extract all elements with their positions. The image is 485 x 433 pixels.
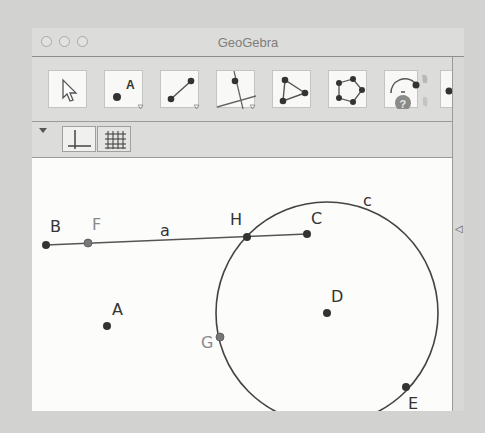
regular-polygon-tool-button[interactable]: [328, 70, 367, 108]
point-D[interactable]: [323, 309, 331, 317]
toolbar: A: [32, 57, 452, 122]
label-H: H: [230, 210, 242, 229]
show-axes-toggle[interactable]: [62, 126, 96, 152]
segment-tool-button[interactable]: [160, 70, 199, 108]
line-through-points-icon: [161, 71, 200, 109]
circle-c[interactable]: [216, 202, 438, 411]
geogebra-window: GeoGebra A: [32, 28, 464, 411]
geometry-drawing: [32, 158, 452, 411]
window-title: GeoGebra: [32, 35, 464, 50]
label-G: G: [201, 333, 213, 352]
label-C: C: [311, 209, 322, 228]
label-B: B: [50, 217, 61, 236]
point-E[interactable]: [402, 383, 410, 391]
grid-icon: [98, 127, 132, 153]
circle-arc-icon: ?: [385, 71, 430, 109]
stylebar-toggle-icon[interactable]: [38, 126, 50, 138]
label-A: A: [112, 300, 123, 319]
style-bar: [32, 122, 452, 158]
point-C[interactable]: [303, 230, 311, 238]
svg-text:A: A: [126, 78, 135, 92]
point-G[interactable]: [216, 333, 224, 341]
svg-text:?: ?: [400, 98, 407, 110]
pentagon-icon: [329, 71, 368, 109]
move-tool-button[interactable]: [48, 70, 87, 108]
title-bar: GeoGebra: [32, 28, 464, 57]
angle-tool-button[interactable]: ?: [384, 70, 418, 108]
point-A[interactable]: [103, 322, 111, 330]
polygon-tool-button[interactable]: [272, 70, 311, 108]
perpendicular-line-tool-button[interactable]: [216, 70, 255, 108]
label-a: a: [160, 221, 170, 240]
point-tool-button[interactable]: A: [104, 70, 143, 108]
graphics-view[interactable]: B F a H C c A D G E: [32, 158, 452, 411]
partial-tool-button[interactable]: [440, 70, 452, 108]
point-H[interactable]: [243, 233, 251, 241]
point-icon: A: [105, 71, 144, 109]
perpendicular-line-icon: [217, 71, 256, 109]
label-F: F: [92, 215, 101, 234]
label-E: E: [408, 394, 418, 411]
collapse-panel-icon[interactable]: ◁: [455, 223, 463, 234]
arrow-cursor-icon: [49, 71, 88, 109]
show-grid-toggle[interactable]: [97, 126, 131, 152]
point-F[interactable]: [84, 239, 92, 247]
label-c: c: [363, 191, 372, 210]
label-D: D: [331, 287, 343, 306]
axes-icon: [63, 127, 97, 153]
side-panel-strip: [453, 57, 464, 411]
polygon-icon: [273, 71, 312, 109]
point-B[interactable]: [42, 241, 50, 249]
